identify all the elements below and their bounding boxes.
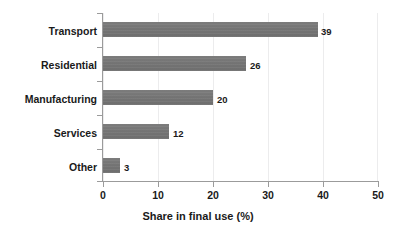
bar-value-manufacturing: 20	[217, 94, 228, 105]
gridline-50	[377, 13, 378, 181]
y-axis-line	[102, 13, 103, 182]
y-axis-tick-3	[97, 115, 103, 116]
bar-value-services: 12	[173, 128, 184, 139]
x-axis-tick-20	[213, 182, 214, 187]
y-axis-tick-4	[97, 149, 103, 150]
x-tick-label-0: 0	[100, 189, 106, 201]
x-tick-label-10: 10	[152, 189, 164, 201]
horizontal-bar-chart: Transport Residential Manufacturing Serv…	[0, 0, 396, 239]
category-label-transport: Transport	[49, 25, 97, 37]
x-axis-tick-40	[323, 182, 324, 187]
x-axis-tick-30	[268, 182, 269, 187]
bar-transport[interactable]	[103, 22, 318, 37]
plot-area	[103, 13, 378, 181]
x-tick-label-40: 40	[317, 189, 329, 201]
category-label-services: Services	[54, 127, 97, 139]
x-axis-tick-50	[378, 182, 379, 187]
x-axis-tick-10	[158, 182, 159, 187]
bar-value-transport: 39	[321, 26, 332, 37]
category-label-manufacturing: Manufacturing	[25, 93, 97, 105]
category-label-other: Other	[69, 161, 97, 173]
y-axis-tick-2	[97, 81, 103, 82]
y-axis-tick-1	[97, 47, 103, 48]
x-tick-label-30: 30	[262, 189, 274, 201]
bar-residential[interactable]	[103, 56, 246, 71]
x-axis-line	[103, 181, 379, 182]
category-label-residential: Residential	[41, 59, 97, 71]
bar-value-other: 3	[124, 162, 129, 173]
bar-manufacturing[interactable]	[103, 90, 213, 105]
gridline-30	[268, 13, 269, 181]
x-tick-label-50: 50	[372, 189, 384, 201]
gridline-20	[213, 13, 214, 181]
bar-value-residential: 26	[250, 60, 261, 71]
x-tick-label-20: 20	[207, 189, 219, 201]
bar-other[interactable]	[103, 158, 120, 173]
x-axis-tick-0	[103, 182, 104, 187]
gridline-40	[323, 13, 324, 181]
bar-services[interactable]	[103, 124, 169, 139]
x-axis-title: Share in final use (%)	[0, 210, 396, 222]
y-axis-tick-0	[97, 13, 103, 14]
